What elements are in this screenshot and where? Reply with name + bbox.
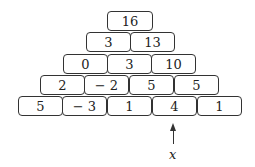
pyramid-cell: 2 (40, 75, 85, 95)
pyramid-cell: 5 (129, 75, 174, 95)
pyramid-cell: 1 (197, 96, 242, 116)
pyramid-cell: 10 (151, 54, 196, 74)
pyramid-cell: − 2 (84, 75, 129, 95)
pyramid-cell: 16 (107, 11, 153, 31)
pyramid-cell: 0 (63, 54, 108, 74)
pyramid-cell: 1 (107, 96, 152, 116)
pyramid-cell: 5 (18, 96, 63, 116)
pyramid-cell: 5 (174, 75, 219, 95)
x-label: x (169, 147, 176, 162)
pyramid-cell: − 3 (62, 96, 107, 116)
number-pyramid: 16 3 13 0 3 10 2 − 2 5 5 5 − 3 1 4 1 x (0, 0, 255, 167)
arrow-shaft (173, 129, 174, 144)
pyramid-cell-x: 4 (152, 96, 197, 116)
pyramid-cell: 3 (107, 54, 152, 74)
pyramid-cell: 13 (130, 32, 175, 52)
pyramid-cell: 3 (86, 32, 131, 52)
